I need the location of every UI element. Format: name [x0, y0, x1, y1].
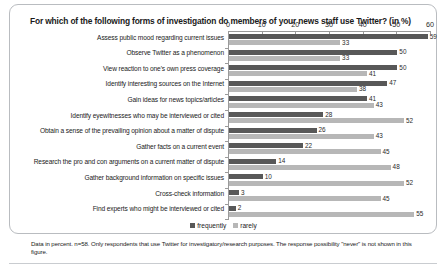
- x-tick-label: 30: [325, 20, 333, 29]
- x-tick-label: 10: [258, 20, 266, 29]
- bar-row: Gather facts on a current event2245: [0, 142, 447, 158]
- bar-value-label: 47: [389, 79, 396, 86]
- bar-rarely: [229, 103, 374, 108]
- bar-rarely: [229, 134, 374, 139]
- bar-rarely: [229, 40, 340, 45]
- bar-rarely: [229, 165, 391, 170]
- bar-row: Observe Twitter as a phenomenon5033: [0, 49, 447, 65]
- bar-value-label: 26: [319, 126, 326, 133]
- x-tick-label: 0: [226, 20, 230, 29]
- x-tick-label: 40: [359, 20, 367, 29]
- legend-swatch-icon: [190, 223, 195, 228]
- bar-rarely: [229, 149, 381, 154]
- legend-label: frequently: [197, 222, 226, 229]
- footnote-divider: [9, 263, 437, 264]
- bar-row: Find experts who might be interviewed or…: [0, 205, 447, 221]
- chart-legend: frequentlyrarely: [0, 222, 447, 229]
- category-label: Gain ideas for news topics/articles: [127, 96, 224, 103]
- bar-value-label: 28: [325, 111, 332, 118]
- category-label: Gather background information on specifi…: [84, 174, 224, 181]
- bar-rarely: [229, 87, 357, 92]
- bar-value-label: 2: [238, 204, 242, 211]
- bar-value-label: 38: [359, 85, 366, 92]
- bar-rarely: [229, 181, 404, 186]
- bar-frequently: [229, 174, 263, 179]
- bar-frequently: [229, 206, 236, 211]
- bar-rarely: [229, 71, 367, 76]
- bar-frequently: [229, 50, 397, 55]
- x-axis-tick-labels: 0102030405060: [228, 20, 430, 31]
- bar-row: Assess public mood regarding current iss…: [0, 33, 447, 49]
- category-label: Gather facts on a current event: [136, 143, 224, 150]
- bar-value-label: 52: [406, 117, 413, 124]
- x-tick-label: 60: [426, 20, 434, 29]
- bar-value-label: 45: [383, 195, 390, 202]
- bar-frequently: [229, 143, 303, 148]
- category-label: Research the pro and con arguments on a …: [34, 158, 224, 165]
- bar-value-label: 45: [383, 148, 390, 155]
- bar-value-label: 41: [369, 70, 376, 77]
- bar-value-label: 55: [416, 210, 423, 217]
- category-label: Identify interesting sources on the Inte…: [106, 80, 224, 87]
- bar-frequently: [229, 34, 428, 39]
- bar-row: Gather background information on specifi…: [0, 173, 447, 189]
- bar-value-label: 50: [399, 64, 406, 71]
- x-tick-label: 50: [392, 20, 400, 29]
- bar-rarely: [229, 212, 414, 217]
- category-label: Find experts who might be interviewed or…: [93, 205, 224, 212]
- category-label: View reaction to one's own press coverag…: [103, 65, 224, 72]
- bar-value-label: 14: [278, 157, 285, 164]
- bar-row: View reaction to one's own press coverag…: [0, 64, 447, 80]
- bar-value-label: 52: [406, 179, 413, 186]
- bar-value-label: 22: [305, 142, 312, 149]
- bar-frequently: [229, 159, 276, 164]
- bar-value-label: 48: [393, 163, 400, 170]
- bar-row: Cross-check information345: [0, 189, 447, 205]
- x-tick-label: 20: [291, 20, 299, 29]
- bar-value-label: 43: [376, 101, 383, 108]
- y-tick-mark: [225, 219, 228, 220]
- bar-row: Research the pro and con arguments on a …: [0, 158, 447, 174]
- bar-value-label: 50: [399, 48, 406, 55]
- bar-frequently: [229, 96, 367, 101]
- category-label: Obtain a sense of the prevailing opinion…: [40, 127, 224, 134]
- category-label: Assess public mood regarding current iss…: [97, 34, 224, 41]
- bar-row: Identify interesting sources on the Inte…: [0, 80, 447, 96]
- bar-value-label: 43: [376, 132, 383, 139]
- category-label: Cross-check information: [155, 190, 224, 197]
- legend-label: rarely: [240, 222, 257, 229]
- bar-value-label: 10: [265, 173, 272, 180]
- figure-container: For which of the following forms of inve…: [0, 0, 447, 273]
- legend-item-frequently[interactable]: frequently: [190, 222, 226, 229]
- bar-value-label: 33: [342, 39, 349, 46]
- legend-swatch-icon: [233, 223, 238, 228]
- bar-frequently: [229, 112, 323, 117]
- figure-footnote: Data in percent. n=58. Only respondents …: [31, 240, 419, 257]
- legend-item-rarely[interactable]: rarely: [233, 222, 257, 229]
- bar-value-label: 59: [430, 33, 437, 40]
- bar-frequently: [229, 128, 317, 133]
- bar-value-label: 33: [342, 54, 349, 61]
- category-label: Observe Twitter as a phenomenon: [126, 49, 224, 56]
- bar-row: Obtain a sense of the prevailing opinion…: [0, 127, 447, 143]
- category-label: Identify eyewitnesses who may be intervi…: [71, 112, 224, 119]
- bar-row: Gain ideas for news topics/articles4143: [0, 95, 447, 111]
- bar-frequently: [229, 190, 239, 195]
- bar-rarely: [229, 196, 381, 201]
- bar-row: Identify eyewitnesses who may be intervi…: [0, 111, 447, 127]
- bar-rarely: [229, 118, 404, 123]
- bar-rarely: [229, 56, 340, 61]
- bar-value-label: 3: [241, 189, 245, 196]
